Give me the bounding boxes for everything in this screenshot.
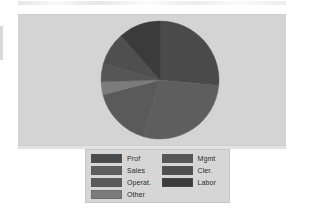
legend-item-mgmt[interactable]: Mgmt <box>162 153 226 163</box>
left-edge-artifact <box>0 26 3 60</box>
legend-columns: Prof Sales Operat. Other Mgmt <box>91 153 225 199</box>
pie-chart <box>100 20 220 140</box>
chart-legend: Prof Sales Operat. Other Mgmt <box>85 149 230 203</box>
legend-column-right: Mgmt Cler. Labor <box>162 153 226 199</box>
pie-slice-group <box>101 21 219 139</box>
legend-swatch-prof <box>91 154 122 163</box>
legend-label-cler: Cler. <box>198 166 213 175</box>
legend-label-sales: Sales <box>127 166 145 175</box>
legend-swatch-operat <box>91 178 122 187</box>
legend-swatch-sales <box>91 166 122 175</box>
chart-plot-panel <box>18 14 286 146</box>
legend-swatch-cler <box>162 166 193 175</box>
legend-item-sales[interactable]: Sales <box>91 165 155 175</box>
legend-item-operat[interactable]: Operat. <box>91 177 155 187</box>
legend-column-left: Prof Sales Operat. Other <box>91 153 155 199</box>
legend-item-labor[interactable]: Labor <box>162 177 226 187</box>
legend-swatch-other <box>91 190 122 199</box>
legend-label-prof: Prof <box>127 154 140 163</box>
scan-artifact-band <box>18 1 286 5</box>
legend-item-cler[interactable]: Cler. <box>162 165 226 175</box>
legend-label-mgmt: Mgmt <box>198 154 216 163</box>
legend-item-prof[interactable]: Prof <box>91 153 155 163</box>
legend-swatch-labor <box>162 178 193 187</box>
pie-slice-prof[interactable] <box>160 21 219 86</box>
legend-item-other[interactable]: Other <box>91 189 155 199</box>
legend-label-other: Other <box>127 190 145 199</box>
legend-swatch-mgmt <box>162 154 193 163</box>
legend-label-labor: Labor <box>198 178 216 187</box>
pie-chart-svg <box>100 20 220 140</box>
legend-label-operat: Operat. <box>127 178 151 187</box>
figure-root: Prof Sales Operat. Other Mgmt <box>0 0 311 215</box>
